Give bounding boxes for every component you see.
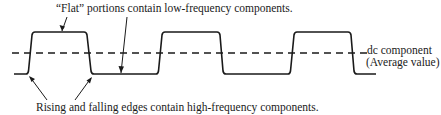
arrowhead-icon (29, 76, 35, 82)
arrow-flat-bottom (121, 17, 127, 73)
edges-annotation: Rising and falling edges contain high-fr… (36, 101, 319, 114)
arrowhead-icon (119, 66, 125, 73)
flat-portions-annotation: “Flat” portions contain low-frequency co… (56, 2, 293, 15)
average-value-label: (Average value) (366, 56, 440, 69)
